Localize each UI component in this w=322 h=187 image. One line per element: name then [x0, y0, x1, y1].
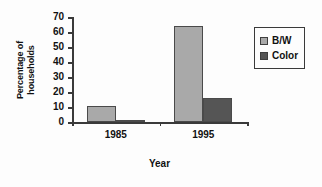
x-axis-category-label: 1995: [192, 129, 214, 141]
y-axis-tick: 60: [68, 32, 72, 34]
x-axis-category-label: 1985: [105, 129, 127, 141]
bar-chart: Percentage of households 010203040506070…: [0, 0, 322, 187]
y-axis-tick-label: 70: [53, 11, 64, 23]
y-axis-tick-label: 20: [53, 86, 64, 98]
y-axis-tick: 30: [68, 77, 72, 79]
y-axis-title-line-1: Percentage of: [15, 41, 25, 99]
legend-label-color: Color: [272, 50, 298, 62]
y-axis-tick: 20: [68, 92, 72, 94]
bar-bw-1995: [174, 26, 203, 122]
legend-label-bw: B/W: [272, 35, 291, 47]
y-axis-tick-label: 10: [53, 101, 64, 113]
y-axis-tick: 40: [68, 62, 72, 64]
y-axis-title-line-2: households: [25, 45, 35, 95]
y-axis-tick: 10: [68, 107, 72, 109]
plot-area: 010203040506070 19851995: [72, 17, 247, 122]
x-axis-tick: [247, 122, 249, 126]
legend: B/W Color: [254, 27, 305, 69]
legend-item-color: Color: [260, 48, 298, 63]
y-axis-tick: 70: [68, 17, 72, 19]
y-axis-tick-label: 0: [58, 116, 64, 128]
bar-color-1985: [116, 120, 145, 122]
y-axis-tick-label: 40: [53, 56, 64, 68]
legend-swatch-color-icon: [260, 52, 268, 60]
y-axis-line: [72, 17, 74, 122]
bar-bw-1985: [87, 106, 116, 123]
x-axis-title: Year: [72, 158, 247, 169]
y-axis-tick-label: 50: [53, 41, 64, 53]
y-axis-tick-label: 30: [53, 71, 64, 83]
x-axis-tick: [72, 122, 74, 126]
y-axis-title: Percentage of households: [8, 18, 42, 122]
y-axis-tick: 50: [68, 47, 72, 49]
x-axis-tick: [160, 122, 162, 126]
y-axis-tick-label: 60: [53, 26, 64, 38]
legend-swatch-bw-icon: [260, 37, 268, 45]
legend-item-bw: B/W: [260, 33, 298, 48]
bar-color-1995: [203, 98, 232, 122]
